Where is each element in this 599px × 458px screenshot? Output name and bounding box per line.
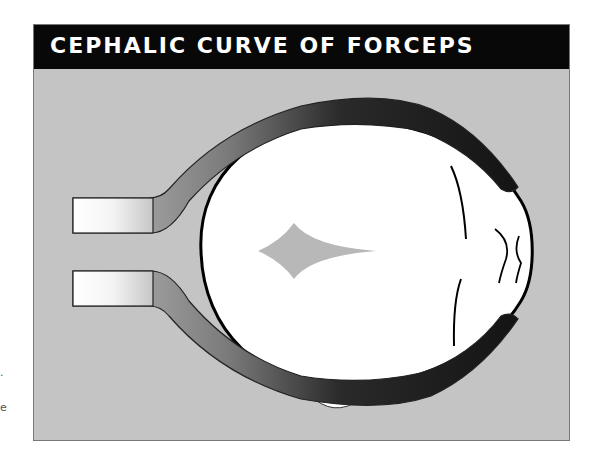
side-text-fragment-2: e bbox=[0, 401, 7, 414]
diagram-title: CEPHALIC CURVE OF FORCEPS bbox=[50, 33, 475, 58]
diagram-frame: CEPHALIC CURVE OF FORCEPS bbox=[33, 24, 570, 441]
forceps-illustration bbox=[34, 69, 571, 442]
side-text-fragment-1: . bbox=[0, 366, 4, 379]
handle-grip-upper bbox=[73, 198, 153, 233]
title-bar: CEPHALIC CURVE OF FORCEPS bbox=[34, 25, 569, 69]
handle-grip-lower bbox=[73, 271, 153, 306]
